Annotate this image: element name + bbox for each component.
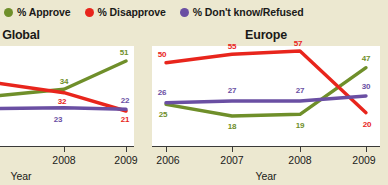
series-line-dontknow (166, 96, 366, 103)
x-tick (232, 146, 233, 152)
circle-marker-icon (85, 8, 94, 17)
x-axis-labels-global: 2008 2009 (0, 154, 134, 168)
data-label-disapprove-2009: 21 (121, 115, 130, 124)
legend-label-disapprove: % Disapprove (98, 6, 166, 18)
panel-title-global: Global (0, 28, 134, 42)
data-label-disapprove-2007: 55 (228, 42, 237, 51)
data-label-approve-2007: 18 (228, 122, 237, 131)
legend-item-disapprove: % Disapprove (85, 6, 166, 18)
data-label-approve-2008: 34 (60, 77, 69, 86)
x-tick (366, 146, 367, 152)
panel-title-europe: Europe (152, 28, 380, 42)
x-axis-labels-europe: 2006 2007 2008 2009 (152, 154, 380, 168)
plot-svg-global (0, 46, 134, 146)
x-axis-label-2009: 2009 (352, 154, 375, 166)
x-tick (64, 146, 65, 152)
x-axis-label-2009: 2009 (114, 154, 137, 166)
series-line-dontknow (0, 108, 126, 110)
x-tick (126, 146, 127, 152)
data-label-dontknow-2008: 27 (296, 86, 305, 95)
x-axis-title-europe: Year (152, 170, 380, 182)
data-label-approve-2008: 19 (296, 121, 305, 130)
data-label-dontknow-2007: 27 (228, 86, 237, 95)
chart-legend: % Approve % Disapprove % Don't know/Refu… (0, 0, 388, 24)
data-label-dontknow-2006: 26 (158, 88, 167, 97)
data-label-dontknow-2008: 23 (54, 115, 63, 124)
circle-marker-icon (4, 8, 13, 17)
data-label-approve-2009: 47 (362, 54, 371, 63)
plot-area-europe: 25 18 19 47 50 55 57 20 26 27 27 30 (152, 46, 380, 147)
data-label-approve-2006: 25 (159, 110, 168, 119)
plot-area-global: 34 51 32 21 23 22 (0, 46, 134, 147)
x-axis-label-2008: 2008 (52, 154, 75, 166)
x-axis-ticks-global (0, 146, 134, 153)
data-label-disapprove-2008: 57 (294, 39, 303, 48)
data-label-disapprove-2009: 20 (363, 120, 372, 129)
legend-item-approve: % Approve (4, 6, 71, 18)
data-label-approve-2009: 51 (120, 48, 129, 57)
legend-label-dontknow: % Don't know/Refused (193, 6, 304, 18)
legend-label-approve: % Approve (17, 6, 71, 18)
chart-figure: % Approve % Disapprove % Don't know/Refu… (0, 0, 388, 185)
data-label-disapprove-2008: 32 (58, 97, 67, 106)
data-label-disapprove-2006: 50 (158, 50, 167, 59)
data-label-dontknow-2009: 22 (121, 96, 130, 105)
data-label-dontknow-2009: 30 (362, 82, 371, 91)
x-axis-ticks-europe (152, 146, 380, 153)
x-tick (300, 146, 301, 152)
x-axis-title-global: Year (0, 170, 134, 182)
x-tick (166, 146, 167, 152)
legend-item-dontknow: % Don't know/Refused (180, 6, 304, 18)
plot-svg-europe (152, 46, 380, 146)
x-axis-label-2008: 2008 (288, 154, 311, 166)
circle-marker-icon (180, 8, 189, 17)
chart-panel-global: Global 34 51 32 21 23 22 2008 2009 (0, 28, 134, 158)
series-line-approve (166, 68, 366, 116)
x-axis-label-2007: 2007 (220, 154, 243, 166)
chart-panel-europe: Europe 25 18 19 47 50 55 57 20 26 27 27 … (152, 28, 380, 158)
x-axis-label-2006: 2006 (156, 154, 179, 166)
